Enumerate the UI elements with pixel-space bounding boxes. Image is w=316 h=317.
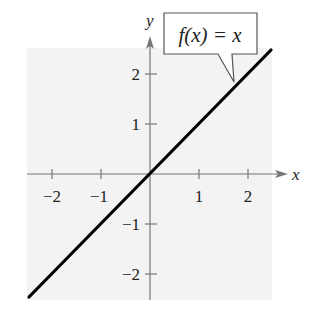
x-tick-label: 2 [244, 187, 253, 206]
y-axis-label: y [144, 11, 154, 30]
x-tick-label: 1 [195, 187, 204, 206]
y-tick-label: −2 [122, 265, 140, 284]
x-tick-label: −2 [43, 187, 61, 206]
chart-figure: x −2 −1 1 2 y 2 1 −1 −2 [0, 0, 316, 317]
x-axis-label: x [291, 165, 300, 184]
y-tick-label: 1 [132, 115, 141, 134]
callout-label: f(x) = x [178, 23, 242, 47]
chart-canvas: x −2 −1 1 2 y 2 1 −1 −2 [0, 0, 316, 317]
x-tick-label: −1 [90, 187, 108, 206]
y-tick-label: 2 [132, 65, 141, 84]
y-tick-label: −1 [122, 215, 140, 234]
